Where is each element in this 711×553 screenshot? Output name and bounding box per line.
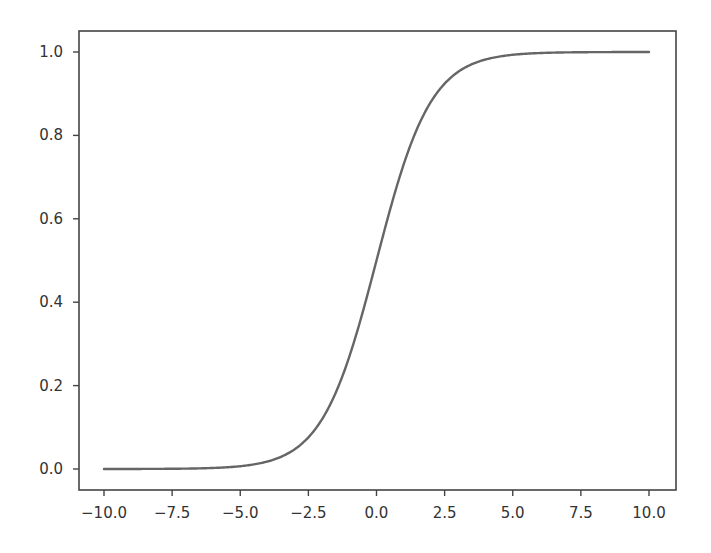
y-tick-label: 0.2: [39, 377, 63, 395]
sigmoid-curve: [104, 52, 649, 469]
x-tick-label: −5.0: [222, 504, 258, 522]
x-tick-label: 7.5: [569, 504, 593, 522]
y-tick-label: 0.6: [39, 210, 63, 228]
y-tick-label: 1.0: [39, 43, 63, 61]
y-tick-label: 0.8: [39, 126, 63, 144]
y-axis: 0.00.20.40.60.81.0: [39, 43, 79, 478]
x-axis: −10.0−7.5−5.0−2.50.02.55.07.510.0: [81, 490, 666, 522]
x-tick-label: 5.0: [501, 504, 525, 522]
x-tick-label: −7.5: [154, 504, 190, 522]
x-tick-label: 2.5: [433, 504, 457, 522]
x-tick-label: 0.0: [365, 504, 389, 522]
sigmoid-chart: −10.0−7.5−5.0−2.50.02.55.07.510.0 0.00.2…: [0, 0, 711, 553]
x-tick-label: −2.5: [290, 504, 326, 522]
y-tick-label: 0.4: [39, 293, 63, 311]
x-tick-label: −10.0: [81, 504, 127, 522]
y-tick-label: 0.0: [39, 460, 63, 478]
x-tick-label: 10.0: [632, 504, 665, 522]
